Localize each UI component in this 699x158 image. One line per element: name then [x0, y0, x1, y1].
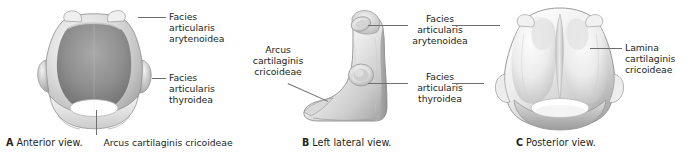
- label-arcus-cartilaginis-cricoideae-a: Arcus cartilaginis cricoideae: [93, 137, 243, 148]
- caption-text-a: Anterior view.: [16, 137, 82, 148]
- caption-letter-c: C: [516, 137, 523, 148]
- cricoid-cartilage-posterior-illustration: [484, 4, 636, 134]
- leader-line-facies-arytenoidea-a: [138, 17, 166, 18]
- leader-line-facies-thyroidea-c: [452, 83, 484, 84]
- label-facies-articularis-thyroidea-a: Facies articularis thyroidea: [169, 72, 239, 106]
- caption-panel-c: CPosterior view.: [516, 137, 596, 149]
- caption-letter-a: A: [6, 137, 13, 148]
- caption-panel-b: BLeft lateral view.: [302, 137, 391, 149]
- cricoid-cartilage-anterior-illustration: [28, 4, 160, 136]
- anatomical-figure: Facies articularis arytenoidea Facies ar…: [0, 0, 699, 158]
- caption-text-b: Left lateral view.: [312, 137, 391, 148]
- caption-panel-a: AAnterior view.: [6, 137, 82, 149]
- label-lamina-cartilaginis-cricoideae-c: Lamina cartilaginis cricoideae: [625, 42, 699, 76]
- label-arcus-cartilaginis-cricoideae-b: Arcus cartilaginis cricoideae: [242, 44, 314, 78]
- panel-anterior-view: Facies articularis arytenoidea Facies ar…: [0, 0, 240, 158]
- leader-line-arcus-cricoideae-a: [96, 110, 97, 135]
- label-facies-articularis-arytenoidea-a: Facies articularis arytenoidea: [169, 11, 239, 45]
- leader-line-facies-thyroidea-b: [368, 83, 408, 84]
- panel-left-lateral-view: Arcus cartilaginis cricoideae Facies art…: [240, 0, 460, 158]
- caption-letter-b: B: [302, 137, 309, 148]
- leader-line-facies-thyroidea-a: [152, 78, 166, 79]
- caption-text-c: Posterior view.: [526, 137, 596, 148]
- leader-line-facies-arytenoidea-b: [368, 25, 408, 26]
- leader-line-lamina-cricoideae-c: [590, 48, 622, 49]
- panel-posterior-view: Lamina cartilaginis cricoideae CPosterio…: [460, 0, 699, 158]
